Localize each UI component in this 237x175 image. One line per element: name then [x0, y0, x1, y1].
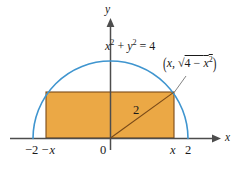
- circle-equation-label: x2 + y2 = 4: [105, 40, 155, 52]
- equation-plus-sign: +: [117, 39, 124, 53]
- point-label-leader-line: [175, 76, 187, 92]
- semicircle-rectangle-figure: x2 + y2 = 4 (x, √4 − x2) 2 y x 0 −2 −x x…: [0, 0, 237, 175]
- x-tick-label-neg-two: −2: [25, 144, 38, 157]
- origin-label: 0: [100, 144, 106, 157]
- point-label-open-paren: (: [163, 55, 167, 72]
- point-label-close-paren: ): [213, 55, 217, 72]
- equation-x-exponent: 2: [110, 38, 114, 47]
- x-tick-label-pos-x: x: [170, 144, 176, 157]
- point-label-comma: ,: [172, 56, 175, 70]
- x-axis-arrowhead: [212, 135, 221, 143]
- point-label-radicand-lead: 4 −: [185, 56, 204, 70]
- equation-equals-four: = 4: [140, 39, 156, 53]
- equation-y-exponent: 2: [133, 38, 137, 47]
- point-label-radical-sign: √: [178, 56, 185, 70]
- x-tick-label-pos-two: 2: [185, 144, 191, 157]
- x-tick-label-neg-x: −x: [41, 144, 55, 157]
- y-axis-label: y: [105, 4, 110, 16]
- point-label-radicand: 4 − x2: [185, 56, 213, 70]
- radius-length-label: 2: [133, 104, 139, 117]
- point-coordinate-label: (x, √4 − x2): [163, 57, 216, 69]
- y-axis-arrowhead: [107, 18, 115, 27]
- x-axis-label: x: [225, 132, 230, 144]
